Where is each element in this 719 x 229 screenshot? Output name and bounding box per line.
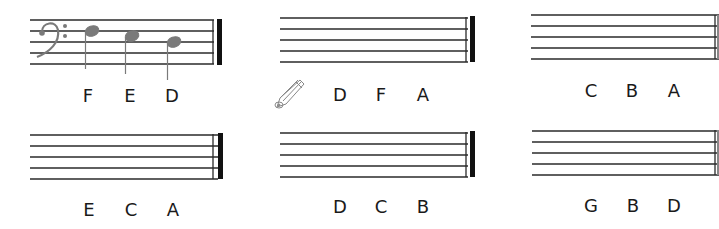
note-label: D	[165, 85, 179, 106]
exercise-6[interactable]: G B D	[480, 115, 719, 229]
staff[interactable]	[0, 115, 240, 229]
note-label: B	[626, 80, 638, 101]
staff[interactable]	[240, 0, 480, 115]
barline-thick	[470, 131, 475, 177]
note-label: B	[627, 195, 639, 216]
staff[interactable]	[480, 115, 719, 229]
note-label: C	[125, 199, 138, 220]
note-label: F	[83, 85, 93, 106]
note-label: D	[333, 84, 347, 105]
staff	[0, 0, 240, 115]
barline-thick	[218, 133, 223, 179]
exercise-1: F E D	[0, 0, 240, 115]
note-label: A	[167, 199, 179, 220]
note-label: A	[668, 80, 680, 101]
exercise-2[interactable]: D F A	[240, 0, 480, 115]
barline-thick	[470, 16, 475, 62]
note-label: E	[124, 85, 135, 106]
bass-clef-icon	[37, 23, 67, 57]
note-label: C	[585, 80, 598, 101]
note-label: F	[376, 84, 386, 105]
staff[interactable]	[240, 115, 480, 229]
note-head-F	[84, 24, 101, 38]
staff[interactable]	[480, 0, 719, 115]
note-head-D	[166, 35, 183, 49]
note-label: C	[375, 196, 388, 217]
note-label: E	[83, 199, 94, 220]
exercise-4[interactable]: E C A	[0, 115, 240, 229]
barline-thick	[217, 19, 222, 65]
note-label: D	[667, 195, 681, 216]
note-label: D	[333, 196, 347, 217]
exercise-5[interactable]: D C B	[240, 115, 480, 229]
exercise-3[interactable]: C B A	[480, 0, 719, 115]
pencil-icon	[275, 80, 304, 108]
note-label: G	[584, 195, 598, 216]
note-label: A	[417, 84, 429, 105]
note-label: B	[417, 196, 429, 217]
